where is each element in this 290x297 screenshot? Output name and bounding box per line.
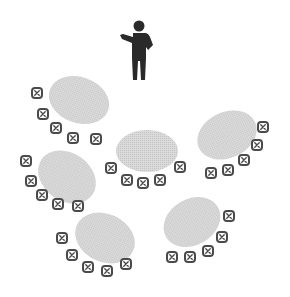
diagram-canvas xyxy=(0,0,290,297)
chair-icon xyxy=(217,232,227,242)
chair-icon xyxy=(37,190,47,200)
chair-icon xyxy=(67,250,77,260)
chair-icon xyxy=(53,199,63,209)
table-group xyxy=(57,203,143,276)
chair-icon xyxy=(223,165,233,175)
tables-group xyxy=(21,68,268,276)
round-table xyxy=(116,130,178,172)
round-table xyxy=(28,140,106,215)
chair-icon xyxy=(239,155,249,165)
chair-icon xyxy=(68,133,78,143)
chair-icon xyxy=(57,233,67,243)
chair-icon xyxy=(83,262,93,272)
chair-icon xyxy=(206,168,216,178)
chair-icon xyxy=(252,140,262,150)
table-group xyxy=(106,130,185,188)
round-table xyxy=(189,101,265,169)
chair-icon xyxy=(167,252,177,262)
chair-icon xyxy=(26,176,36,186)
round-table xyxy=(155,187,230,257)
table-group xyxy=(32,68,116,144)
chair-icon xyxy=(175,162,185,172)
chair-icon xyxy=(106,163,116,173)
chair-icon xyxy=(51,123,61,133)
seating-layout-diagram xyxy=(0,0,290,297)
chair-icon xyxy=(102,266,112,276)
table-group xyxy=(155,187,234,262)
chair-icon xyxy=(38,109,48,119)
presenter-icon xyxy=(120,21,153,81)
chair-icon xyxy=(224,211,234,221)
chair-icon xyxy=(155,175,165,185)
chair-icon xyxy=(73,201,83,211)
chair-icon xyxy=(138,178,148,188)
table-group xyxy=(21,140,106,215)
chair-icon xyxy=(203,246,213,256)
chair-icon xyxy=(258,122,268,132)
chair-icon xyxy=(32,88,42,98)
table-group xyxy=(189,101,268,178)
chair-icon xyxy=(21,156,31,166)
chair-icon xyxy=(121,259,131,269)
chair-icon xyxy=(185,252,195,262)
chair-icon xyxy=(91,134,101,144)
chair-icon xyxy=(122,175,132,185)
